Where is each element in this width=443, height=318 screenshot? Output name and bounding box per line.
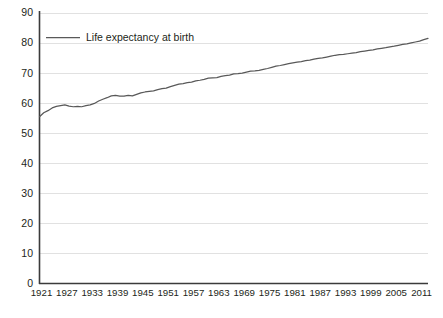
chart-container: 0102030405060708090 19211927193319391945… (0, 0, 443, 318)
y-axis-tick-label: 30 (21, 187, 33, 199)
y-axis-tick-labels: 0102030405060708090 (21, 6, 33, 289)
chart-legend: Life expectancy at birth (46, 31, 194, 43)
y-axis-tick-label: 10 (21, 247, 33, 259)
y-axis-tick-label: 60 (21, 97, 33, 109)
x-axis-tick-label: 1969 (233, 287, 255, 298)
x-axis-tick-label: 2011 (411, 287, 432, 298)
line-chart: 0102030405060708090 19211927193319391945… (0, 0, 443, 318)
x-axis-tick-label: 1921 (31, 287, 53, 298)
x-axis-tick-label: 1987 (309, 287, 331, 298)
x-axis-tick-label: 2005 (385, 287, 407, 298)
y-axis-tick-label: 50 (21, 127, 33, 139)
y-axis-tick-label: 80 (21, 36, 33, 48)
x-axis-tick-label: 1975 (259, 287, 281, 298)
x-axis-tick-label: 1933 (81, 287, 103, 298)
y-axis-tick-label: 20 (21, 217, 33, 229)
x-axis-tick-label: 1981 (284, 287, 306, 298)
series-line-life-expectancy (40, 38, 429, 116)
y-axis-tick-label: 70 (21, 67, 33, 79)
x-axis-tick-label: 1927 (56, 287, 78, 298)
x-axis-tick-label: 1993 (335, 287, 357, 298)
x-axis-tick-labels: 1921192719331939194519511957196319691975… (31, 287, 432, 298)
x-axis-tick-label: 1951 (157, 287, 179, 298)
x-axis-tick-label: 1999 (360, 287, 382, 298)
x-axis-tick-label: 1945 (132, 287, 154, 298)
x-axis-tick-label: 1939 (107, 287, 129, 298)
x-axis-tick-label: 1957 (183, 287, 205, 298)
y-axis-tick-label: 90 (21, 6, 33, 18)
legend-label-life-expectancy: Life expectancy at birth (86, 31, 194, 43)
y-axis-tick-label: 40 (21, 157, 33, 169)
x-axis-tick-label: 1963 (208, 287, 230, 298)
gridline-group (40, 14, 429, 254)
